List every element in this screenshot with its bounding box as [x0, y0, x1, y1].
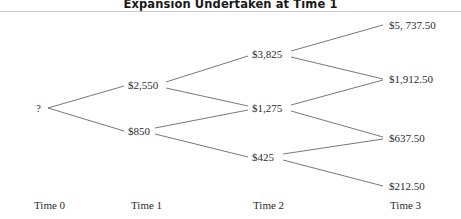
axis-label-time-1: Time 1: [131, 199, 162, 211]
tree-node-label: $212.50: [389, 180, 425, 192]
axis-label-time-0: Time 0: [34, 199, 65, 211]
decision-tree-figure: Expansion Undertaken at Time 1 ?$2,550$8…: [0, 0, 461, 219]
tree-node-label: ?: [36, 102, 41, 114]
tree-branch: [166, 56, 248, 82]
tree-branch: [155, 134, 248, 157]
tree-node-label: $850: [128, 125, 150, 137]
tree-node-label: $1,275: [252, 102, 282, 114]
tree-node-label: $5, 737.50: [389, 19, 436, 31]
tree-node-label: $425: [252, 151, 274, 163]
tree-branch: [283, 160, 383, 186]
tree-node-label: $637.50: [389, 132, 425, 144]
tree-branch: [155, 110, 248, 128]
axis-label-time-2: Time 2: [253, 199, 284, 211]
axis-label-time-3: Time 3: [390, 199, 421, 211]
tree-node-label: $1,912.50: [389, 73, 433, 85]
tree-branch: [291, 25, 383, 51]
tree-branch: [283, 139, 383, 154]
tree-branch: [291, 111, 383, 137]
tree-branch: [166, 88, 248, 106]
tree-branch: [291, 80, 383, 105]
tree-branch: [48, 86, 124, 108]
tree-branch: [291, 57, 383, 79]
tree-node-label: $2,550: [128, 79, 158, 91]
tree-node-label: $3,825: [252, 48, 282, 60]
tree-branch: [48, 108, 124, 131]
